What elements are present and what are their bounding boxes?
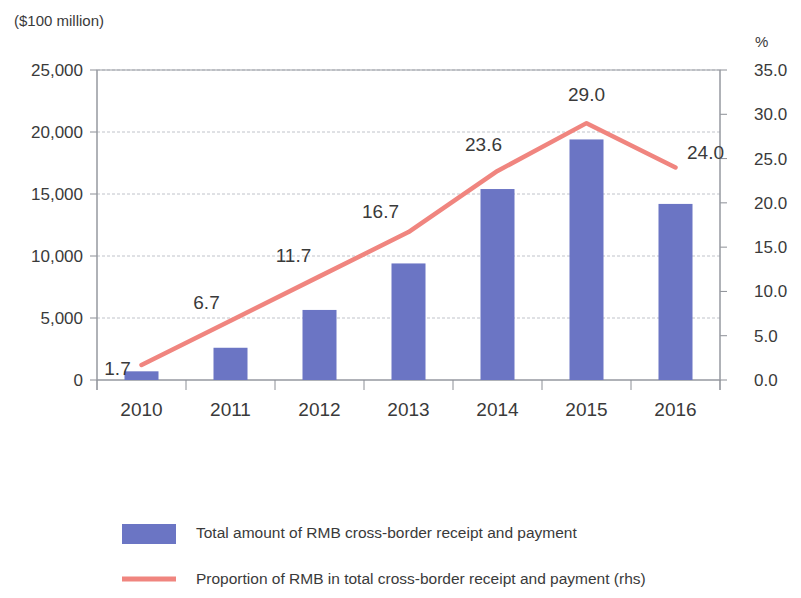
right-tick-label: 10.0 [754,282,787,301]
line-label-2011: 6.7 [193,292,219,313]
legend-label-1: Total amount of RMB cross-border receipt… [196,524,577,541]
left-tick-label: 0 [74,371,83,390]
right-tick-label: 20.0 [754,194,787,213]
category-label-2012[interactable]: 2012 [298,399,340,420]
right-tick-label: 25.0 [754,150,787,169]
right-axis-ticks: 0.05.010.015.020.025.030.035.0 [720,61,787,390]
left-tick-label: 25,000 [31,61,83,80]
legend-swatch-bar [122,524,176,544]
category-label-2016[interactable]: 2016 [654,399,696,420]
right-tick-label: 35.0 [754,61,787,80]
bar-2012 [303,310,337,380]
chart-legend: Total amount of RMB cross-border receipt… [122,524,646,587]
left-tick-label: 5,000 [40,309,83,328]
chart-container: ($100 million) % 05,00010,00015,00020,00… [0,0,801,598]
combo-chart: ($100 million) % 05,00010,00015,00020,00… [0,0,801,598]
right-tick-label: 5.0 [754,327,778,346]
legend-label-2: Proportion of RMB in total cross-border … [196,570,646,587]
line-label-2016: 24.0 [687,142,724,163]
left-axis-title: ($100 million) [14,12,104,29]
left-axis-ticks: 05,00010,00015,00020,00025,000 [31,61,97,390]
line-label-2013: 16.7 [362,201,399,222]
category-label-2010[interactable]: 2010 [120,399,162,420]
left-tick-label: 20,000 [31,123,83,142]
line-label-2010: 1.7 [104,358,130,379]
right-tick-label: 30.0 [754,105,787,124]
bar-2015 [570,139,604,380]
line-label-2015: 29.0 [568,84,605,105]
bar-2011 [214,348,248,380]
bar-2013 [392,263,426,380]
bar-series [125,139,693,380]
category-label-2014[interactable]: 2014 [476,399,519,420]
right-tick-label: 15.0 [754,238,787,257]
line-label-2014: 23.6 [465,134,502,155]
category-label-2011[interactable]: 2011 [210,399,251,420]
right-axis-title: % [755,33,768,50]
bar-2014 [481,189,515,380]
category-label-2013[interactable]: 2013 [387,399,429,420]
left-tick-label: 10,000 [31,247,83,266]
line-label-2012: 11.7 [276,245,312,266]
right-tick-label: 0.0 [754,371,778,390]
bar-2016 [659,204,693,380]
left-tick-label: 15,000 [31,185,83,204]
category-label-2015[interactable]: 2015 [565,399,607,420]
category-axis-labels: 2010201120122013201420152016 [97,380,720,420]
